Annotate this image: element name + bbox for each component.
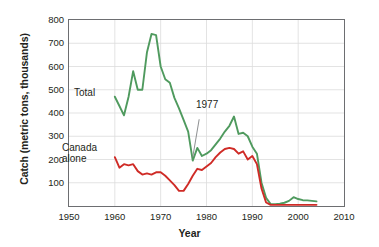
x-tick-2000: 2000 [278,212,318,222]
x-axis-title: Year [0,227,379,239]
annotation-label-1977: 1977 [196,99,218,110]
y-axis-tick-labels: 800700600500400300200100 [38,0,64,247]
x-tick-2010: 2010 [324,212,364,222]
y-tick-100: 100 [38,178,64,188]
x-tick-1970: 1970 [141,212,181,222]
x-axis-tick-labels: 1950196019701980199020002010 [0,212,379,226]
x-tick-1990: 1990 [232,212,272,222]
y-tick-300: 300 [38,131,64,141]
plot-area [68,19,345,207]
x-tick-1980: 1980 [187,212,227,222]
y-tick-400: 400 [38,108,64,118]
data-series-layer [115,34,317,205]
y-tick-500: 500 [38,85,64,95]
series-line-total [115,34,317,204]
x-tick-1960: 1960 [95,212,135,222]
y-tick-200: 200 [38,155,64,165]
x-tick-1950: 1950 [49,212,89,222]
fisheries-catch-chart: Catch (metric tons, thousands) 800700600… [0,0,379,247]
series-line-canada-alone [115,148,317,205]
series-label-canada-line2: alone [62,153,97,164]
y-tick-800: 800 [38,15,64,25]
y-tick-700: 700 [38,38,64,48]
series-label-total: Total [74,87,95,98]
chart-svg [69,20,344,206]
y-axis-title: Catch (metric tons, thousands) [18,0,30,219]
series-label-canada-alone: Canada alone [62,142,97,164]
y-tick-600: 600 [38,62,64,72]
gridlines [69,20,344,206]
series-label-canada-line1: Canada [62,142,97,153]
